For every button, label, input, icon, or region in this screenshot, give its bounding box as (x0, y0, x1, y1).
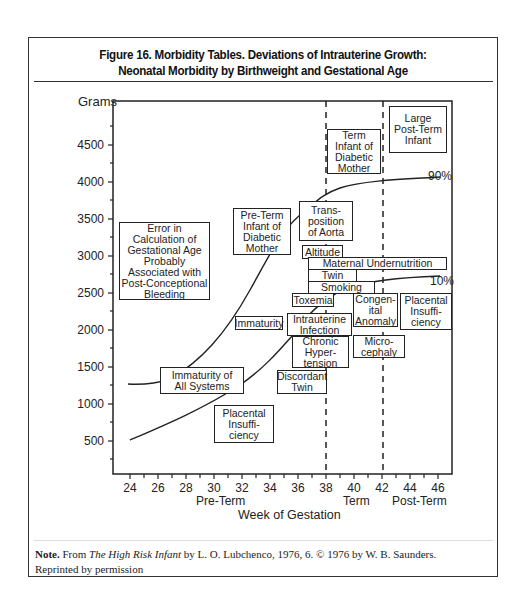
box-chronic-hypertension: Chronic Hyper- tension (292, 336, 349, 368)
percentile-90-label: 90% (428, 170, 452, 182)
box-discordant-twin: Discordant Twin (277, 370, 327, 394)
x-tick-26: 26 (146, 481, 170, 495)
y-tick-4500: 4500 (60, 138, 104, 152)
x-tick-46: 46 (426, 481, 450, 495)
box-microcephaly: Micro- cephaly (353, 335, 405, 358)
source-note: Note. From The High Risk Infant by L. O.… (35, 547, 495, 577)
period-term-label: Term (343, 495, 370, 507)
note-book-title: The High Risk Infant (89, 548, 181, 560)
y-tick-1000: 1000 (60, 397, 104, 411)
box-large-postterm-infant: Large Post-Term Infant (389, 106, 447, 153)
box-toxemia: Toxemia (292, 293, 334, 307)
x-tick-38: 38 (314, 481, 338, 495)
box-transposition-of-aorta: Trans- position of Aorta (299, 201, 353, 241)
note-suffix: by L. O. Lubchenco, 1976, 6. © 1976 by W… (181, 548, 436, 560)
y-tick-2500: 2500 (60, 286, 104, 300)
box-preterm-infant-diabetic-mother: Pre-Term Infant of Diabetic Mother (233, 208, 291, 255)
period-postterm-label: Post-Term (392, 495, 447, 507)
box-placental-insufficiency-right: Placental Insuffi- ciency (400, 293, 452, 330)
y-tick-3000: 3000 (60, 249, 104, 263)
y-tick-500: 500 (60, 434, 104, 448)
x-tick-36: 36 (286, 481, 310, 495)
x-tick-30: 30 (202, 481, 226, 495)
y-tick-3500: 3500 (60, 212, 104, 226)
box-term-infant-diabetic-mother: Term Infant of Diabetic Mother (327, 129, 381, 174)
percentile-10-label: 10% (430, 275, 454, 287)
y-tick-4000: 4000 (60, 175, 104, 189)
x-axis-label: Week of Gestation (238, 509, 341, 521)
note-label: Note. (35, 548, 60, 560)
note-line2: Reprinted by permission (35, 563, 143, 575)
box-intrauterine-infection: Intrauterine Infection (287, 313, 352, 336)
box-error-calculation-gestational-age: Error in Calculation of Gestational Age … (119, 222, 210, 300)
box-immaturity-all-systems: Immaturity of All Systems (160, 367, 244, 394)
x-tick-42: 42 (370, 481, 394, 495)
note-divider (34, 540, 493, 541)
x-tick-32: 32 (230, 481, 254, 495)
x-tick-24: 24 (118, 481, 142, 495)
box-congenital-anomaly: Congen- ital Anomaly (353, 293, 398, 327)
box-immaturity: Immaturity (235, 316, 283, 330)
y-tick-2000: 2000 (60, 323, 104, 337)
x-tick-40: 40 (342, 481, 366, 495)
note-prefix: From (60, 548, 89, 560)
x-tick-44: 44 (398, 481, 422, 495)
y-axis-unit-label: Grams (78, 96, 117, 108)
x-tick-28: 28 (174, 481, 198, 495)
box-placental-insufficiency-left: Placental Insuffi- ciency (214, 405, 274, 443)
period-preterm-label: Pre-Term (196, 495, 245, 507)
x-tick-34: 34 (258, 481, 282, 495)
y-tick-1500: 1500 (60, 360, 104, 374)
